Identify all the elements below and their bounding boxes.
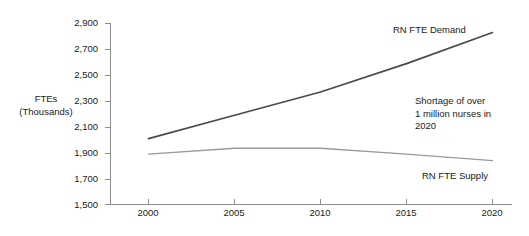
annotation-shortage-line1: Shortage of over (415, 95, 491, 108)
annotation-shortage-line2: 1 million nurses in (415, 108, 491, 121)
annotation-shortage: Shortage of over 1 million nurses in 202… (415, 95, 491, 133)
x-tick-2000: 2000 (126, 208, 170, 218)
annotation-rn-fte-demand: RN FTE Demand (393, 24, 466, 37)
annotation-rn-fte-supply: RN FTE Supply (422, 170, 488, 183)
x-tick-2010: 2010 (298, 208, 342, 218)
x-tick-2020: 2020 (470, 208, 514, 218)
nursing-workforce-line-chart: FTEs (Thousands) 2,900 2,700 2,500 2,300… (0, 0, 529, 236)
x-tick-2005: 2005 (212, 208, 256, 218)
x-tick-2015: 2015 (384, 208, 428, 218)
annotation-shortage-line3: 2020 (415, 120, 491, 133)
